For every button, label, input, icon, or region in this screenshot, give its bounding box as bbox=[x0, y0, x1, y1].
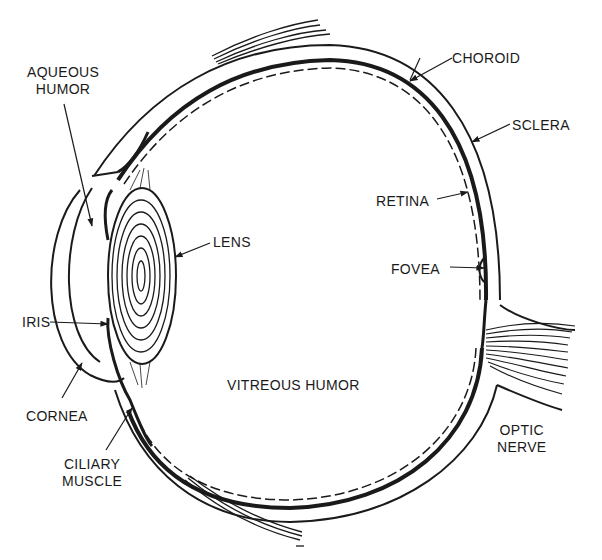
choroid-retina-layers bbox=[118, 60, 486, 508]
cornea-outline bbox=[51, 172, 124, 382]
label-ciliary-muscle: CILIARY MUSCLE bbox=[62, 456, 122, 490]
label-aqueous-humor: AQUEOUS HUMOR bbox=[27, 64, 99, 98]
optic-nerve-fibers bbox=[486, 323, 575, 394]
label-retina: RETINA bbox=[376, 193, 429, 210]
label-optic-nerve-line2: NERVE bbox=[497, 439, 546, 456]
label-aqueous-humor-line2: HUMOR bbox=[27, 81, 99, 98]
label-sclera: SCLERA bbox=[512, 117, 570, 134]
label-optic-nerve: OPTIC NERVE bbox=[497, 422, 546, 456]
label-aqueous-humor-line1: AQUEOUS bbox=[27, 64, 99, 81]
eye-diagram: AQUEOUS HUMOR LENS IRIS CORNEA CILIARY M… bbox=[0, 0, 602, 560]
label-fovea: FOVEA bbox=[391, 261, 440, 278]
label-lens: LENS bbox=[213, 234, 251, 251]
lens-rings bbox=[108, 188, 176, 364]
label-ciliary-muscle-line2: MUSCLE bbox=[62, 473, 122, 490]
label-cornea: CORNEA bbox=[26, 408, 88, 425]
label-ciliary-muscle-line1: CILIARY bbox=[62, 456, 122, 473]
label-optic-nerve-line1: OPTIC bbox=[497, 422, 546, 439]
extraocular-muscle-bottom bbox=[185, 476, 304, 546]
extraocular-muscle-top bbox=[212, 20, 330, 64]
label-iris: IRIS bbox=[22, 314, 50, 331]
label-vitreous-humor: VITREOUS HUMOR bbox=[227, 377, 360, 394]
label-choroid: CHOROID bbox=[452, 50, 520, 67]
